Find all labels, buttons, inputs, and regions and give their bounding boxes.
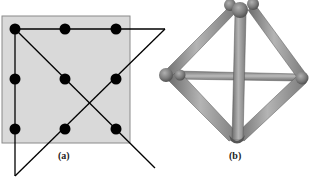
dot xyxy=(10,24,21,35)
dot xyxy=(60,124,71,135)
joint-left-inner xyxy=(175,70,186,81)
rod-left-bottom xyxy=(168,70,240,141)
rod-top-left xyxy=(164,8,236,78)
panel-b xyxy=(159,0,309,144)
dot xyxy=(111,24,122,35)
dot xyxy=(60,74,71,85)
figure-canvas xyxy=(0,0,313,177)
joint-right xyxy=(296,72,309,85)
panel-b-label: (b) xyxy=(229,150,241,161)
dot xyxy=(60,24,71,35)
dot xyxy=(111,74,122,85)
panel-a-label: (a) xyxy=(58,150,70,161)
rod-top-right xyxy=(248,6,306,80)
rod-right-bottom xyxy=(236,76,306,141)
rod-top-bottom xyxy=(232,14,246,140)
dot xyxy=(10,74,21,85)
panel-a xyxy=(2,16,165,176)
joint-left xyxy=(159,68,173,82)
dot xyxy=(10,124,21,135)
joint-top xyxy=(232,2,248,18)
dot xyxy=(111,124,122,135)
